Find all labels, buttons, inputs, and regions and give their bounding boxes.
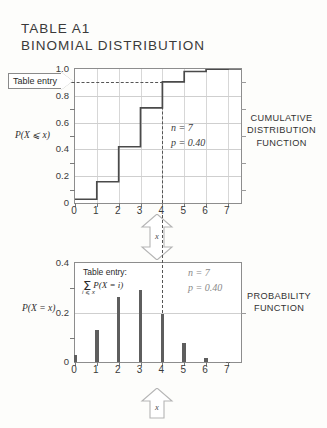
pmf-table-entry-annotation: Table entry: Σ i ⩽ x P(X = i): [83, 267, 127, 292]
pmf-xtick-7: 7: [224, 364, 230, 375]
table-a1-figure: TABLE A1 BINOMIAL DISTRIBUTION P(X ⩽ x) …: [0, 0, 327, 428]
pmf-ytick-mark-0.1: [70, 338, 75, 339]
pmf-bar-0: [74, 355, 78, 362]
pmf-xtick-2: 2: [115, 364, 121, 375]
pmf-ytick-0: 0: [47, 356, 69, 367]
pmf-xtick-6: 6: [202, 364, 208, 375]
pmf-bar-1: [95, 330, 99, 362]
pmf-ytick-right-0.2: [241, 313, 246, 314]
pmf-bar-4: [161, 314, 165, 362]
pmf-xtick-3: 3: [137, 364, 143, 375]
pmf-side-label-line-2: FUNCTION: [247, 302, 311, 314]
pmf-param-p: p = 0.40: [188, 281, 222, 296]
pmf-ytick-0.4: 0.4: [47, 257, 69, 268]
connector-arrow-bottom: x: [140, 388, 174, 420]
pmf-entry-expression: P(X = i): [93, 280, 123, 291]
pmf-bar-2: [117, 297, 121, 362]
pmf-ytick-0.2: 0.2: [47, 306, 69, 317]
pmf-chart: P(X = x) 0.4 0.2 0: [0, 0, 327, 428]
pmf-hgrid-0.2: [75, 313, 241, 314]
pmf-xtick-5: 5: [180, 364, 186, 375]
sigma-subscript: i ⩽ x: [82, 290, 95, 296]
pmf-xtick-1: 1: [93, 364, 99, 375]
pmf-parameters: n = 7 p = 0.40: [188, 266, 222, 295]
pmf-plot-frame: Table entry: Σ i ⩽ x P(X = i) n = 7 p = …: [74, 262, 242, 363]
pmf-xtick-0: 0: [71, 364, 77, 375]
pmf-param-n: n = 7: [188, 266, 222, 281]
pmf-side-label-line-1: PROBABILITY: [247, 290, 311, 302]
pmf-side-label: PROBABILITY FUNCTION: [247, 290, 311, 315]
pmf-xtick-4: 4: [159, 364, 165, 375]
pmf-entry-formula: Σ i ⩽ x P(X = i): [83, 279, 127, 292]
sigma-icon: Σ i ⩽ x: [83, 279, 91, 292]
pmf-bar-3: [139, 290, 143, 362]
connector-bottom-label: x: [155, 402, 159, 412]
pmf-ytick-mark-0.3: [70, 288, 75, 289]
pmf-bar-5: [182, 343, 186, 362]
pmf-entry-caption: Table entry:: [83, 267, 127, 278]
